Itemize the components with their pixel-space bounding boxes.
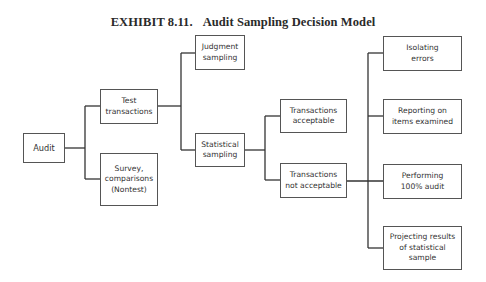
node-transactions-acceptable: Transactions acceptable <box>280 99 347 133</box>
node-statistical-sampling-label: Statistical sampling <box>201 140 239 161</box>
node-test-transactions: Test transactions <box>100 89 158 124</box>
node-performing-audit-label: Performing 100% audit <box>401 171 445 192</box>
node-performing-100-audit: Performing 100% audit <box>383 164 462 199</box>
node-reporting-items-label: Reporting on items examined <box>392 106 453 127</box>
node-isolating-errors: Isolating errors <box>383 36 462 71</box>
node-transactions-not-acceptable: Transactions not acceptable <box>280 163 347 198</box>
node-survey-comparisons: Survey, comparisons (Nontest) <box>100 153 158 206</box>
node-judgment-sampling-label: Judgment sampling <box>202 42 239 63</box>
node-transactions-not-acceptable-label: Transactions not acceptable <box>285 170 342 191</box>
node-projecting-results-label: Projecting results of statistical sample <box>390 232 456 264</box>
node-transactions-acceptable-label: Transactions acceptable <box>290 106 337 127</box>
node-survey-label: Survey, comparisons (Nontest) <box>105 164 153 196</box>
node-reporting-items-examined: Reporting on items examined <box>383 99 462 134</box>
node-audit-label: Audit <box>33 143 54 154</box>
node-statistical-sampling: Statistical sampling <box>195 133 245 167</box>
node-test-transactions-label: Test transactions <box>106 96 153 117</box>
node-judgment-sampling: Judgment sampling <box>195 35 245 70</box>
node-projecting-results: Projecting results of statistical sample <box>383 226 462 270</box>
node-audit: Audit <box>23 133 65 163</box>
node-isolating-errors-label: Isolating errors <box>406 43 438 64</box>
